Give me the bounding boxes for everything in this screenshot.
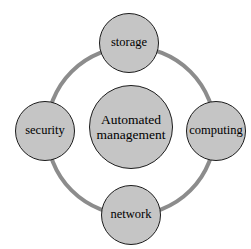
node-storage[interactable]: storage (99, 13, 159, 73)
node-automated-management-label: Automated management (97, 112, 166, 143)
center-label-line-2: management (97, 127, 166, 142)
node-computing-label: computing (189, 124, 242, 138)
node-security-label: security (25, 124, 65, 138)
node-computing[interactable]: computing (186, 101, 246, 161)
node-network[interactable]: network (101, 185, 161, 245)
diagram-canvas: security storage computing network Autom… (0, 0, 251, 249)
node-security[interactable]: security (15, 101, 75, 161)
center-label-line-1: Automated (101, 112, 161, 127)
node-automated-management[interactable]: Automated management (89, 85, 173, 169)
node-storage-label: storage (111, 36, 147, 50)
node-network-label: network (111, 208, 152, 222)
